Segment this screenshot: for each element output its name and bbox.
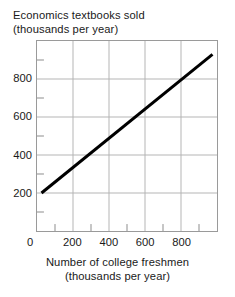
chart-title-block: Economics textbooks sold (thousands per … (13, 8, 223, 36)
x-tick-label-200: 200 (52, 236, 92, 248)
data-line-series-0 (42, 54, 213, 193)
y-tick-label-800: 800 (0, 73, 32, 84)
y-axis-tick-labels: 800 600 400 200 (0, 40, 32, 232)
plot-area (36, 40, 218, 232)
chart-subtitle: (thousands per year) (13, 22, 223, 36)
x-axis-title: Number of college freshmen (0, 255, 235, 269)
plot-canvas (37, 41, 217, 231)
x-tick-label-0: 0 (10, 236, 50, 248)
x-tick-label-400: 400 (89, 236, 129, 248)
vertical-gridlines (73, 41, 181, 231)
x-axis-title-unit: (thousands per year) (0, 269, 235, 283)
x-minor-ticks (55, 224, 199, 231)
y-tick-label-400: 400 (0, 150, 32, 161)
chart-figure: Economics textbooks sold (thousands per … (0, 0, 235, 297)
x-tick-label-600: 600 (125, 236, 165, 248)
x-axis-tick-labels: 0 200 400 600 800 (36, 236, 218, 250)
y-tick-label-200: 200 (0, 188, 32, 199)
x-tick-label-800: 800 (162, 236, 202, 248)
chart-title: Economics textbooks sold (13, 8, 223, 22)
y-minor-ticks (37, 60, 44, 212)
y-tick-label-600: 600 (0, 111, 32, 122)
x-axis-title-block: Number of college freshmen (thousands pe… (0, 255, 235, 283)
